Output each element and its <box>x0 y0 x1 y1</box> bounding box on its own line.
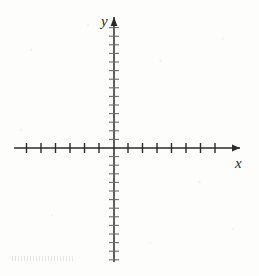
y-axis-arrowhead <box>111 17 118 26</box>
x-axis-arrowhead <box>232 145 240 152</box>
axis-arrowheads <box>111 17 240 151</box>
axes-drawing <box>0 0 259 276</box>
x-axis-label: x <box>235 156 242 171</box>
y-axis-label: y <box>101 14 108 29</box>
coordinate-plane-figure: y x <box>0 0 259 276</box>
